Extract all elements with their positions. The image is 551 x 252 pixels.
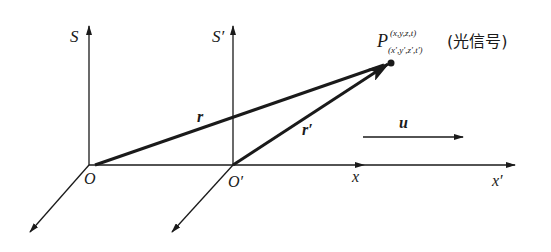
x-prime-axis-label: x′ [491, 172, 503, 189]
point-p-subscript: (x′,y′,z′,t′) [388, 45, 423, 55]
reference-frames-diagram: S S′ O O′ x x′ r r′ u P (x,y,z,t) (x′,y′… [0, 0, 551, 252]
r-vector [95, 65, 384, 165]
point-p-symbol: P [376, 31, 388, 51]
origin-o-label: O [84, 170, 96, 187]
s-prime-axis-label: S′ [212, 27, 225, 46]
s-depth-axis [30, 165, 89, 232]
light-signal-annotation: (光信号) [447, 32, 507, 51]
s-axis-label: S [70, 27, 79, 46]
point-p-superscript: (x,y,z,t) [390, 28, 416, 38]
r-vector-label: r [197, 108, 204, 125]
r-prime-vector-label: r′ [302, 121, 313, 138]
event-point-p [388, 60, 395, 67]
r-prime-vector [233, 64, 388, 165]
velocity-label: u [399, 114, 408, 131]
x-axis-label: x [351, 168, 359, 185]
s-prime-depth-axis [172, 165, 233, 232]
origin-o-prime-label: O′ [228, 173, 244, 190]
